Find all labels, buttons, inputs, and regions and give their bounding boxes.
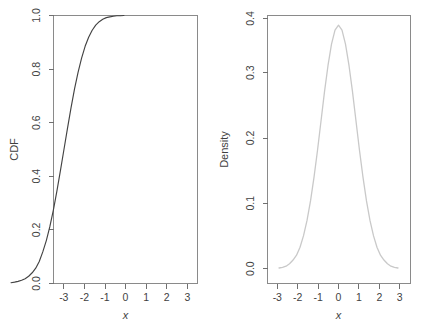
cdf-y-axis: 0.0 0.2 0.4 0.6 0.8 1.0 (30, 8, 54, 291)
density-xtick-1: -2 (293, 291, 302, 303)
cdf-panel: 0.0 0.2 0.4 0.6 0.8 1.0 -3 -2 -1 0 (0, 0, 213, 328)
cdf-xtick-2: -1 (100, 291, 109, 303)
density-plot-box (268, 16, 411, 284)
cdf-y-axis-title: CDF (8, 138, 20, 161)
cdf-ytick-2: 0.4 (30, 169, 42, 184)
cdf-plot-box (54, 16, 198, 284)
density-curve (279, 25, 398, 268)
cdf-ytick-1: 0.2 (30, 222, 42, 237)
cdf-x-axis-title: x (122, 309, 129, 321)
density-xtick-5: 2 (376, 291, 382, 303)
cdf-xtick-3: 0 (123, 291, 129, 303)
cdf-xtick-5: 2 (164, 291, 170, 303)
figure-canvas: 0.0 0.2 0.4 0.6 0.8 1.0 -3 -2 -1 0 (0, 0, 427, 328)
density-x-axis: -3 -2 -1 0 1 2 3 (273, 284, 403, 304)
density-ytick-3: 0.3 (244, 65, 256, 80)
density-y-axis-title: Density (218, 131, 230, 168)
density-panel: 0.0 0.1 0.2 0.3 0.4 -3 -2 -1 0 1 2 (214, 0, 427, 328)
density-x-axis-title: x (335, 309, 342, 321)
density-ytick-4: 0.4 (244, 11, 256, 26)
cdf-xtick-4: 1 (143, 291, 149, 303)
cdf-ytick-4: 0.8 (30, 62, 42, 77)
density-xtick-3: 0 (336, 291, 342, 303)
cdf-ytick-3: 0.6 (30, 115, 42, 130)
density-xtick-0: -3 (273, 291, 282, 303)
cdf-xtick-0: -3 (59, 291, 68, 303)
density-xtick-6: 3 (397, 291, 403, 303)
density-ytick-0: 0.0 (244, 261, 256, 276)
cdf-xtick-1: -2 (80, 291, 89, 303)
density-ytick-2: 0.2 (244, 131, 256, 146)
density-ytick-1: 0.1 (244, 196, 256, 211)
cdf-xtick-6: 3 (184, 291, 190, 303)
density-xtick-2: -1 (313, 291, 322, 303)
density-y-axis: 0.0 0.1 0.2 0.3 0.4 (244, 11, 268, 276)
cdf-x-axis: -3 -2 -1 0 1 2 3 (59, 284, 190, 304)
cdf-curve (11, 16, 124, 283)
cdf-ytick-5: 1.0 (30, 8, 42, 23)
cdf-ytick-0: 0.0 (30, 276, 42, 291)
density-xtick-4: 1 (356, 291, 362, 303)
